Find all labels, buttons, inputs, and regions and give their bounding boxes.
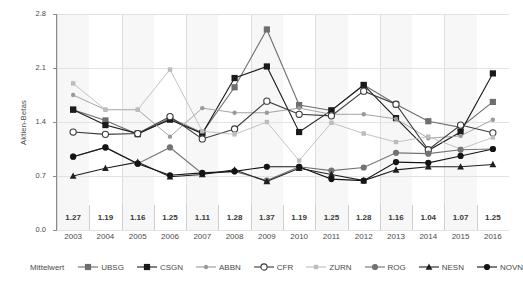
legend-marker-ZURN [306,262,326,272]
y-tick-2.1 [53,68,57,69]
legend-label-ZURN: ZURN [329,263,351,272]
mean-value-2012: 1.28 [348,205,380,230]
legend-item-NOVN[interactable]: NOVN [477,262,523,272]
legend-marker-NESN [419,262,439,272]
legend-item-ROG[interactable]: ROG [365,262,406,272]
y-tick-label-2.8: 2.8 [22,9,46,18]
mean-value-separator [154,205,155,230]
y-tick-label-0.0: 0.0 [22,225,46,234]
mean-value-2008: 1.28 [218,205,250,230]
legend-label-ROG: ROG [388,263,406,272]
y-tick-2.8 [53,14,57,15]
legend-label-CFR: CFR [277,263,293,272]
x-tick-label-2009: 2009 [251,232,283,241]
legend-marker-UBSG [78,262,98,272]
y-tick-label-1.4: 1.4 [22,117,46,126]
series-lines [57,14,509,230]
mean-value-separator [315,205,316,230]
mean-value-2007: 1.11 [186,205,218,230]
y-tick-label-0.7: 0.7 [22,171,46,180]
mean-value-separator [89,205,90,230]
mean-value-2005: 1.16 [122,205,154,230]
mean-value-separator [444,205,445,230]
y-tick-1.4 [53,122,57,123]
y-tick-0.7 [53,176,57,177]
mean-value-2010: 1.19 [283,205,315,230]
mean-value-separator [380,205,381,230]
mean-value-2014: 1.04 [412,205,444,230]
mean-value-separator [186,205,187,230]
plot-area [57,14,509,230]
mean-value-separator [251,205,252,230]
x-tick-label-2014: 2014 [412,232,444,241]
mean-value-2009: 1.37 [251,205,283,230]
legend-item-ZURN[interactable]: ZURN [306,262,351,272]
legend-label-ABBN: ABBN [219,263,241,272]
mean-value-2016: 1.25 [477,205,509,230]
gridline-y-0 [57,230,509,231]
series-CFR [70,88,496,153]
x-tick-label-2003: 2003 [57,232,89,241]
x-axis-labels: 2003200420052006200720082009201020112012… [57,232,509,246]
series-CSGN [70,63,496,153]
legend-item-ABBN[interactable]: ABBN [196,262,241,272]
legend-marker-NOVN [477,262,497,272]
mean-value-row: 1.271.191.161.251.111.281.371.191.251.28… [57,205,509,230]
mean-value-2013: 1.16 [380,205,412,230]
legend-item-CFR[interactable]: CFR [254,262,293,272]
x-tick-label-2013: 2013 [380,232,412,241]
x-tick-label-2005: 2005 [122,232,154,241]
legend-mean-label: Mittelwert [30,263,64,272]
x-tick-label-2012: 2012 [348,232,380,241]
x-tick-label-2015: 2015 [444,232,476,241]
legend-item-NESN[interactable]: NESN [419,262,464,272]
legend-item-CSGN[interactable]: CSGN [137,262,183,272]
legend-label-CSGN: CSGN [160,263,183,272]
y-tick-label-2.1: 2.1 [22,63,46,72]
legend-marker-CFR [254,262,274,272]
x-tick-label-2004: 2004 [89,232,121,241]
y-tick-0.0 [53,230,57,231]
legend-marker-ABBN [196,262,216,272]
mean-value-2003: 1.27 [57,205,89,230]
mean-value-separator [477,205,478,230]
x-tick-label-2016: 2016 [477,232,509,241]
mean-value-separator [283,205,284,230]
legend-label-NOVN: NOVN [500,263,523,272]
mean-value-2006: 1.25 [154,205,186,230]
mean-value-2011: 1.25 [315,205,347,230]
legend-marker-ROG [365,262,385,272]
x-tick-label-2007: 2007 [186,232,218,241]
mean-value-separator [122,205,123,230]
chart-legend: Mittelwert UBSGCSGNABBNCFRZURNROGNESNNOV… [30,258,517,276]
legend-label-NESN: NESN [442,263,464,272]
legend-item-UBSG[interactable]: UBSG [78,262,124,272]
x-tick-label-2010: 2010 [283,232,315,241]
series-NOVN [70,144,496,183]
mean-value-2004: 1.19 [89,205,121,230]
mean-value-separator [218,205,219,230]
x-tick-label-2006: 2006 [154,232,186,241]
series-ROG [70,144,496,183]
legend-marker-CSGN [137,262,157,272]
series-UBSG [70,26,496,137]
mean-value-separator [348,205,349,230]
x-tick-label-2008: 2008 [218,232,250,241]
mean-value-2015: 1.07 [444,205,476,230]
mean-value-separator [412,205,413,230]
x-tick-label-2011: 2011 [315,232,347,241]
legend-label-UBSG: UBSG [101,263,124,272]
